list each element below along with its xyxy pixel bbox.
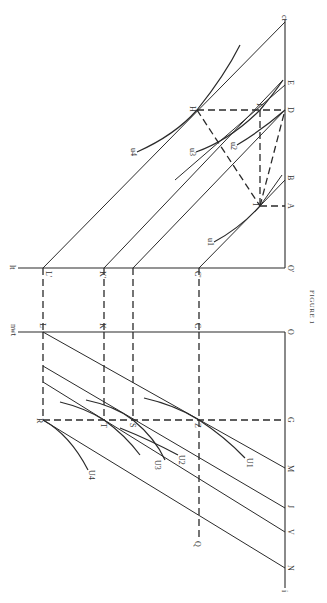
curve-U4 <box>60 402 140 455</box>
label-F: F <box>255 103 264 108</box>
lower-panel: nwt L K C O R T S Z G U4 U3 U2 U1 M J V … <box>9 323 295 593</box>
label-U4: U4 <box>87 470 96 480</box>
figure-1-diagram: ct E D B A H F I u4 u3 u2 u1 lt L' K' C'… <box>0 0 327 603</box>
label-u2: u2 <box>229 142 238 150</box>
label-M: M <box>286 465 295 472</box>
label-R: R <box>35 418 44 424</box>
label-Q: Q <box>193 541 202 547</box>
label-Lp: L' <box>44 271 53 278</box>
label-G: G <box>286 417 295 423</box>
line-to-J <box>43 366 285 508</box>
label-S: S <box>128 423 137 427</box>
dash-I-D <box>260 110 285 206</box>
label-U2: U2 <box>177 455 186 465</box>
label-H: H <box>188 106 197 112</box>
curve-u3 <box>196 80 283 152</box>
label-A: A <box>286 203 295 209</box>
curve-u4 <box>137 45 240 152</box>
label-u3: u3 <box>188 148 197 156</box>
label-u4: u4 <box>129 148 138 156</box>
label-O: O <box>286 329 295 335</box>
upper-panel: ct E D B A H F I u4 u3 u2 u1 lt L' K' C'… <box>8 15 295 332</box>
line-R-N <box>43 420 285 568</box>
label-D: D <box>286 107 295 113</box>
curve-u1 <box>214 206 260 242</box>
label-U1: U1 <box>245 458 254 468</box>
label-i: i <box>280 590 289 593</box>
label-I: I <box>251 203 260 206</box>
label-u1: u1 <box>206 238 215 246</box>
label-T: T <box>99 423 108 428</box>
label-lt: lt <box>8 265 17 270</box>
label-J: J <box>286 505 295 508</box>
figure-caption: FIGURE 1 <box>308 290 316 325</box>
label-K: K <box>98 323 107 329</box>
label-ct: ct <box>280 15 289 22</box>
label-E: E <box>286 80 295 85</box>
budget-line-Lp-ct <box>43 22 285 268</box>
label-Z: Z <box>193 423 202 428</box>
label-Kp: K' <box>98 271 107 279</box>
label-B: B <box>286 175 295 180</box>
label-V: V <box>286 529 295 535</box>
label-C: C <box>193 323 202 328</box>
curve-U2 <box>43 420 88 470</box>
line-I-B-ext <box>260 175 282 206</box>
label-Cp: C' <box>193 271 202 278</box>
label-U3: U3 <box>153 460 162 470</box>
label-nwt: nwt <box>9 324 18 337</box>
label-Op: O' <box>286 265 295 273</box>
label-N: N <box>286 565 295 571</box>
label-L: L <box>38 323 47 328</box>
